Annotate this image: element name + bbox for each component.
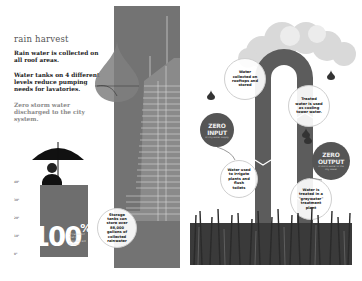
- small-drop-icon: [207, 90, 215, 100]
- zero-input-subtitle: of city water supply: [200, 136, 234, 139]
- scale-tick: 10": [14, 234, 19, 238]
- small-drop-icon: [327, 70, 335, 80]
- rainfall-scale: 40" 30" 20" 10" 0": [14, 180, 30, 260]
- scale-tick: 20": [14, 216, 19, 220]
- storage-tanks-note: Storage tanks can store over 88,000 gall…: [97, 208, 137, 248]
- paragraph-water-tanks: Water tanks on 4 different levels reduce…: [14, 72, 104, 94]
- scale-tick: 40": [14, 180, 19, 184]
- step-irrigate-flush: Water used to irrigate plants and flush …: [220, 160, 258, 198]
- zero-input-badge: ZERO INPUT of city water supply: [200, 113, 234, 147]
- stat-caption: of rainwater that is collected will be u…: [69, 233, 89, 247]
- scale-tick: 0": [14, 252, 17, 256]
- small-drop-icon: [304, 134, 312, 144]
- zero-output-subtitle: of storm water to the city sewer: [312, 165, 350, 171]
- step-cooling-tower: Treated water is used as cooling tower w…: [288, 85, 330, 127]
- scale-tick: 30": [14, 198, 19, 202]
- raindrop-icon: [93, 40, 141, 102]
- paragraph-roof-collection: Rain water is collected on all roof area…: [14, 50, 104, 64]
- infographic-title: rain harvest: [14, 34, 69, 44]
- zero-output-badge: ZERO OUTPUT of storm water to the city s…: [312, 142, 350, 180]
- grass-illustration: [190, 205, 352, 265]
- zero-output-title: ZERO OUTPUT: [312, 151, 350, 165]
- step-collect-rooftops: Water collected on rooftops and stored: [224, 58, 266, 100]
- zero-input-title: ZERO INPUT: [200, 122, 234, 136]
- paragraph-zero-discharge: Zero storm water discharged to the city …: [14, 102, 104, 124]
